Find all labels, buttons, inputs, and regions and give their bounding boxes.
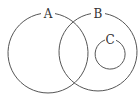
label-a: A <box>43 7 53 21</box>
circle-a <box>8 14 88 93</box>
label-c: C <box>105 33 114 47</box>
label-b: B <box>94 7 103 21</box>
venn-diagram: A B C <box>0 0 139 94</box>
